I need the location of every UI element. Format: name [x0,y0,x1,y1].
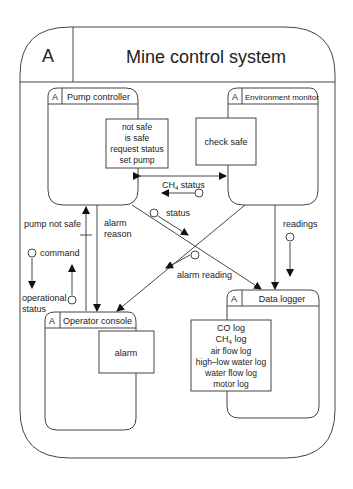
interface-check-safe: check safe [204,137,247,147]
interface-water-flow-log: water flow log [204,368,257,378]
label-operational-2: status [22,304,47,314]
component-diagram: A Mine control system A Pump controller … [0,0,353,489]
interface-air-flow-log: air flow log [211,346,252,356]
interface-ch4-log: CH4 log [216,334,247,345]
operational-status-port-icon [68,296,76,304]
interface-co-log: CO log [217,323,245,333]
label-alarm-reading: alarm reading [177,270,232,280]
environment-monitor-tag: A [232,92,238,102]
label-readings: readings [283,219,318,229]
operator-console-title: Operator console [63,316,132,326]
label-alarm-reason-2: reason [104,229,132,239]
system-tag: A [42,46,54,66]
interface-is-safe: is safe [125,133,150,143]
label-pump-not-safe: pump not safe [24,219,81,229]
alarm-reading-arrow [166,255,190,268]
interface-high-low-water-log: high–low water log [196,357,267,367]
environment-monitor-title: Environment monitor [245,93,319,102]
pump-controller-title: Pump controller [67,92,130,102]
label-alarm-reason-1: alarm [104,218,127,228]
label-status: status [166,208,191,218]
operator-console-tag: A [49,316,55,326]
label-ch4-status: CH4 status [162,180,205,191]
ch4-status-port-icon [195,189,203,197]
interface-set-pump: set pump [120,155,155,165]
interface-alarm: alarm [115,348,138,358]
data-logger-tag: A [231,294,237,304]
data-logger-title: Data logger [259,294,306,304]
interface-request-status: request status [110,144,163,154]
pump-controller-tag: A [52,92,58,102]
label-command: command [40,248,80,258]
command-port-icon [28,249,36,257]
label-operational-1: operational [22,293,67,303]
link-env-console [117,205,245,311]
interface-motor-log: motor log [213,379,249,389]
readings-port-icon [286,233,294,241]
interface-not-safe: not safe [122,122,153,132]
system-title: Mine control system [126,47,286,67]
status-port-icon [150,209,158,217]
alarm-reading-port-icon [191,251,199,259]
